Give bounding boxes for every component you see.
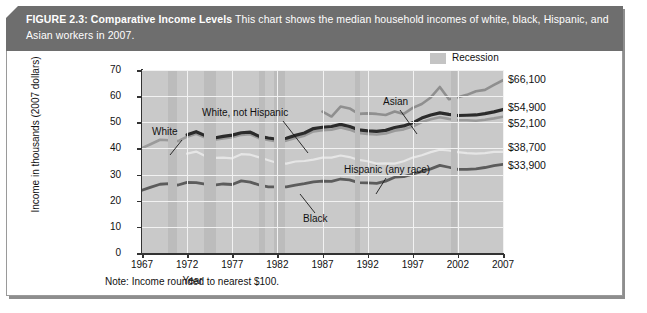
chart-note: Note: Income rounded to nearest $100. — [105, 276, 279, 287]
x-tick-label: 1977 — [210, 259, 254, 270]
x-tick-label: 1982 — [255, 259, 299, 270]
gridline-vertical — [458, 70, 459, 253]
x-axis-title-wrap: Year — [7, 275, 622, 286]
gridline-vertical — [503, 70, 504, 253]
gridline-vertical — [323, 70, 324, 253]
x-tick-mark — [142, 254, 144, 258]
plot-area — [142, 70, 503, 253]
y-tick-label: 40 — [81, 142, 121, 153]
value-label: $52,100 — [508, 117, 546, 129]
series-label: Hispanic (any race) — [344, 164, 430, 175]
y-tick-mark — [137, 122, 141, 124]
x-tick-mark — [503, 254, 505, 258]
y-tick-mark — [137, 70, 141, 72]
value-label: $66,100 — [508, 73, 546, 85]
x-tick-label: 2002 — [436, 259, 480, 270]
figure-container: FIGURE 2.3: Comparative Income Levels Th… — [0, 0, 647, 313]
frame-shadow-bottom — [9, 296, 625, 299]
series-label: Asian — [383, 96, 408, 107]
y-tick-mark — [137, 253, 141, 255]
x-tick-mark — [232, 254, 234, 258]
y-tick-label: 70 — [81, 64, 121, 75]
gridline-vertical — [413, 70, 414, 253]
x-tick-mark — [323, 254, 325, 258]
y-tick-label: 20 — [81, 195, 121, 206]
gridline-vertical — [187, 70, 188, 253]
x-tick-label: 1972 — [165, 259, 209, 270]
x-tick-mark — [187, 254, 189, 258]
figure-header: FIGURE 2.3: Comparative Income Levels Th… — [6, 6, 623, 51]
legend-swatch-recession — [430, 53, 446, 64]
figure-caption: FIGURE 2.3: Comparative Income Levels Th… — [26, 11, 613, 43]
series-label: Black — [303, 213, 327, 224]
y-tick-label: 30 — [81, 169, 121, 180]
recession-band — [451, 70, 457, 253]
y-tick-mark — [137, 227, 141, 229]
x-tick-mark — [277, 254, 279, 258]
recession-band — [259, 70, 264, 253]
gridline-vertical — [368, 70, 369, 253]
y-tick-label: 60 — [81, 90, 121, 101]
gridline-vertical — [277, 70, 278, 253]
series-label: White — [152, 126, 178, 137]
y-tick-label: 0 — [81, 247, 121, 258]
value-label: $54,900 — [508, 101, 546, 113]
y-tick-label: 10 — [81, 221, 121, 232]
y-tick-mark — [137, 175, 141, 177]
recession-band — [168, 70, 177, 253]
x-tick-label: 2007 — [481, 259, 525, 270]
y-tick-mark — [137, 148, 141, 150]
x-tick-label: 1967 — [120, 259, 164, 270]
legend-label-recession: Recession — [452, 52, 499, 63]
y-tick-label: 50 — [81, 116, 121, 127]
y-tick-mark — [137, 96, 141, 98]
value-label: $38,700 — [508, 141, 546, 153]
x-tick-label: 1992 — [346, 259, 390, 270]
gridline-vertical — [232, 70, 233, 253]
y-axis-title: Income in thousands (2007 dollars) — [30, 55, 41, 215]
figure-number: FIGURE 2.3: — [26, 13, 88, 25]
recession-band — [274, 70, 286, 253]
recession-band — [355, 70, 360, 253]
value-label: $33,900 — [508, 159, 546, 171]
x-tick-mark — [458, 254, 460, 258]
x-tick-label: 1997 — [391, 259, 435, 270]
series-label: White, not Hispanic — [202, 107, 288, 118]
chart-body: Income in thousands (2007 dollars) Reces… — [7, 51, 622, 295]
x-tick-mark — [368, 254, 370, 258]
x-tick-label: 1987 — [301, 259, 345, 270]
figure-title: Comparative Income Levels — [91, 13, 232, 25]
x-tick-mark — [413, 254, 415, 258]
recession-band — [204, 70, 216, 253]
y-tick-mark — [137, 201, 141, 203]
